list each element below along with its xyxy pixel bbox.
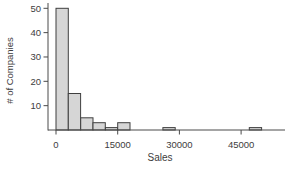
sales-histogram-figure: 10203040500150003000045000 # of Companie… <box>0 0 290 173</box>
y-tick-label: 40 <box>30 27 41 38</box>
x-tick-label: 15000 <box>104 139 130 150</box>
x-tick-label: 45000 <box>228 139 254 150</box>
x-axis-label: Sales <box>129 152 191 163</box>
x-tick-label: 30000 <box>166 139 192 150</box>
histogram-bar <box>56 8 68 130</box>
x-tick-label: 0 <box>53 139 58 150</box>
histogram-bar <box>118 123 130 130</box>
histogram-bar <box>81 118 93 130</box>
y-tick-label: 20 <box>30 76 41 87</box>
y-tick-label: 10 <box>30 100 41 111</box>
histogram-bar <box>68 94 80 131</box>
y-tick-label: 30 <box>30 51 41 62</box>
y-axis-label: # of Companies <box>4 15 15 127</box>
sales-histogram-chart: 10203040500150003000045000 <box>0 0 290 173</box>
histogram-bar <box>93 123 105 130</box>
y-tick-label: 50 <box>30 3 41 14</box>
